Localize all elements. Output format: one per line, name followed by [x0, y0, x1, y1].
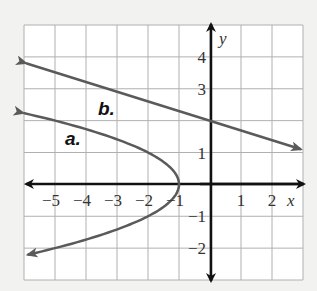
svg-text:−2: −2	[135, 191, 153, 210]
y-axis-label: y	[217, 29, 227, 48]
svg-text:−1: −1	[188, 207, 206, 226]
graph: −5−4−3−2−112431−1−2 x y a. b.	[0, 0, 317, 291]
x-axis-label: x	[286, 191, 295, 210]
svg-text:−4: −4	[73, 191, 92, 210]
svg-text:2: 2	[268, 191, 277, 210]
svg-text:1: 1	[237, 191, 246, 210]
svg-text:3: 3	[198, 80, 207, 99]
svg-text:−2: −2	[188, 239, 206, 258]
curve-a-label: a.	[65, 128, 81, 149]
svg-text:−1: −1	[166, 191, 184, 210]
svg-text:−5: −5	[42, 191, 60, 210]
svg-text:4: 4	[198, 48, 207, 67]
svg-text:−3: −3	[104, 191, 122, 210]
line-b-label: b.	[98, 98, 115, 119]
svg-text:1: 1	[198, 144, 207, 163]
